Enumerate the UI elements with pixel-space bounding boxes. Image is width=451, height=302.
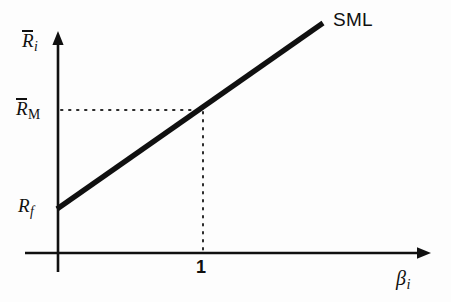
- x-axis-title-sub: i: [406, 276, 411, 292]
- rm-label-sub: M: [28, 107, 41, 122]
- y-axis-title-sub: i: [34, 39, 38, 54]
- rf-label-base: R: [18, 195, 30, 216]
- y-axis-title-base: R: [22, 30, 34, 50]
- x-axis-title-base: β: [396, 267, 406, 289]
- y-axis-title: Ri: [22, 30, 38, 54]
- y-axis-arrowhead: [52, 31, 63, 45]
- sml-series-label: SML: [333, 10, 373, 29]
- sml-figure: Ri RM Rf 1 βi SML: [0, 0, 451, 302]
- rf-label: Rf: [18, 196, 34, 219]
- rf-label-sub: f: [30, 204, 34, 219]
- x-axis-title: βi: [396, 268, 410, 291]
- x-tick-label-one: 1: [196, 258, 206, 276]
- x-axis-arrowhead: [417, 247, 431, 259]
- sml-chart-canvas: [0, 0, 451, 302]
- sml-line: [57, 23, 323, 209]
- rm-label-base: R: [16, 98, 28, 118]
- rm-label: RM: [16, 98, 40, 122]
